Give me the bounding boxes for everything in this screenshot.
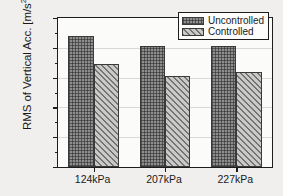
y-axis-tick: [53, 18, 58, 19]
y-axis-tick: [53, 137, 58, 138]
legend-label-uncontrolled: Uncontrolled: [208, 15, 264, 26]
bar-124kpa-controlled: [94, 64, 119, 167]
y-axis-tick: [53, 78, 58, 79]
y-axis-minor-tick: [55, 93, 58, 94]
legend-swatch-controlled: [182, 28, 204, 36]
y-axis-tick: [53, 48, 58, 49]
bar-207kpa-uncontrolled: [140, 46, 165, 167]
y-axis-minor-tick: [55, 33, 58, 34]
y-axis-minor-tick: [55, 152, 58, 153]
y-axis-label-text: RMS of Vertical Acc. [m/s: [21, 3, 33, 130]
x-axis-category-label: 124kPa: [58, 173, 128, 185]
x-axis-category-label: 207kPa: [129, 173, 199, 185]
x-axis-category-label: 227kPa: [200, 173, 270, 185]
x-axis-tick: [236, 167, 237, 172]
legend-item-uncontrolled: Uncontrolled: [182, 15, 264, 26]
bar-124kpa-uncontrolled: [68, 36, 93, 167]
bar-227kpa-controlled: [236, 72, 261, 167]
bar-207kpa-controlled: [165, 76, 190, 167]
legend-label-controlled: Controlled: [208, 26, 254, 37]
y-axis-tick: [53, 167, 58, 168]
x-axis-tick: [94, 167, 95, 172]
y-axis-label: RMS of Vertical Acc. [m/s2]: [19, 0, 33, 143]
legend-item-controlled: Controlled: [182, 26, 264, 37]
y-axis-label-exponent: 2: [19, 0, 28, 3]
y-axis-minor-tick: [55, 122, 58, 123]
chart-legend: Uncontrolled Controlled: [178, 12, 269, 40]
bar-chart-figure: RMS of Vertical Acc. [m/s2] 0.100.080.06…: [0, 0, 283, 196]
legend-swatch-uncontrolled: [182, 17, 204, 25]
bar-227kpa-uncontrolled: [211, 46, 236, 167]
x-axis-tick: [165, 167, 166, 172]
y-axis-minor-tick: [55, 63, 58, 64]
y-axis-tick: [53, 107, 58, 108]
